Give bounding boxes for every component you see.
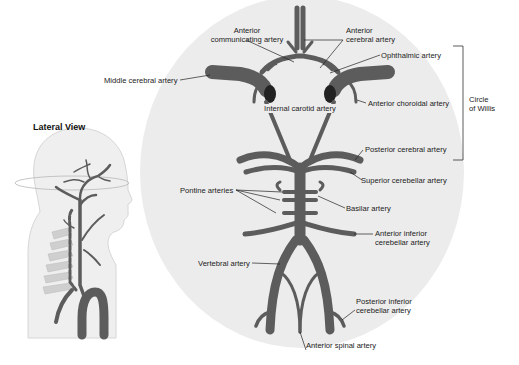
label-anterior-spinal-artery: Anterior spinal artery bbox=[306, 341, 376, 350]
label-superior-cerebellar-artery: Superior cerebellar artery bbox=[361, 176, 447, 185]
label-anterior-cerebral-artery: Anterior cerebral artery bbox=[346, 26, 395, 44]
label-basilar-artery: Basilar artery bbox=[346, 204, 391, 213]
lateral-view-title: Lateral View bbox=[33, 122, 85, 132]
label-anterior-choroidal-artery: Anterior choroidal artery bbox=[368, 99, 449, 108]
label-pontine-arteries: Pontine arteries bbox=[180, 186, 233, 195]
label-circle-of-willis: Circle of Willis bbox=[469, 95, 495, 113]
label-posterior-inferior-cerebellar-artery: Posterior inferior cerebellar artery bbox=[356, 297, 412, 315]
label-anterior-communicating-artery: Anterior communicating artery bbox=[182, 26, 312, 44]
lateral-view-head bbox=[15, 128, 132, 338]
label-posterior-cerebral-artery: Posterior cerebral artery bbox=[365, 145, 446, 154]
label-internal-carotid-artery: Internal carotid artery bbox=[257, 104, 343, 113]
label-middle-cerebral-artery: Middle cerebral artery bbox=[104, 76, 177, 85]
label-anterior-inferior-cerebellar-artery: Anterior inferior cerebellar artery bbox=[375, 229, 430, 247]
label-ophthalmic-artery: Ophthalmic artery bbox=[381, 51, 441, 60]
label-vertebral-artery: Vertebral artery bbox=[198, 259, 250, 268]
